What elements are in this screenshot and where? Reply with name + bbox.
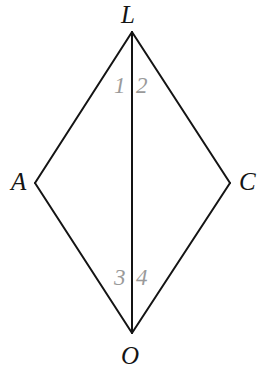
vertex-label-c: C: [239, 169, 256, 194]
angle-label-3: 3: [114, 266, 126, 289]
vertex-label-o: O: [121, 343, 139, 368]
angle-label-4: 4: [136, 266, 148, 289]
angle-label-2: 2: [136, 74, 148, 97]
vertex-label-a: A: [11, 169, 26, 194]
edge-L-to-A: [35, 32, 132, 183]
edge-L-to-C: [132, 32, 230, 183]
geometry-figure: L A C O 1 2 3 4: [0, 0, 265, 380]
vertex-label-l: L: [121, 2, 135, 27]
angle-label-1: 1: [114, 74, 126, 97]
kite-diagram-svg: [0, 0, 265, 380]
edge-C-to-O: [132, 183, 230, 333]
edge-A-to-O: [35, 183, 132, 333]
